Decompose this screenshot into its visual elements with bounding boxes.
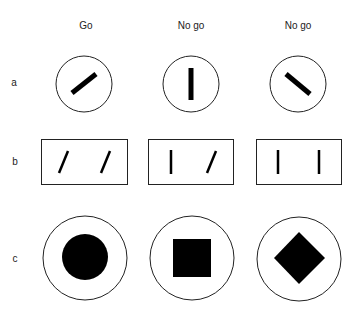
stimulus-a-go [56,56,112,112]
diagram-canvas [0,0,354,315]
row-c [43,216,341,301]
stimulus-b-go [42,140,128,185]
stimulus-b-no-go-1 [149,140,234,185]
stimulus-c-no-go-1 [150,216,234,300]
stimulus-b-no-go-2 [257,140,342,185]
row-a [56,56,326,112]
stimulus-c-no-go-2 [257,217,341,301]
stimulus-a-no-go-1 [163,56,219,112]
stimulus-c-go [43,216,127,300]
row-b [42,140,342,185]
stimulus-a-no-go-2 [270,56,326,112]
